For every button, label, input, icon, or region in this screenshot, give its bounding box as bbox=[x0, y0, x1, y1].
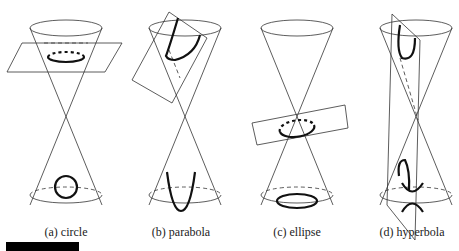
label-parabola: (b) parabola bbox=[152, 225, 210, 240]
label-circle: (a) circle bbox=[45, 225, 88, 240]
parabola-curve-icon bbox=[167, 172, 195, 211]
label-hyperbola: (d) hyperbola bbox=[380, 225, 445, 240]
panel-hyperbola-cone bbox=[380, 14, 452, 240]
conic-sections-diagram bbox=[0, 0, 459, 251]
black-bar bbox=[6, 242, 79, 251]
ellipse-curve-icon bbox=[277, 194, 317, 208]
panel-parabola-cone bbox=[132, 12, 221, 205]
panel-ellipse-cone bbox=[252, 20, 348, 205]
label-ellipse: (c) ellipse bbox=[273, 225, 321, 240]
panel-circle-cone bbox=[7, 20, 122, 205]
hyperbola-lower-curve-icon bbox=[402, 204, 423, 213]
hyperbola-upper-curve-icon bbox=[402, 183, 423, 192]
